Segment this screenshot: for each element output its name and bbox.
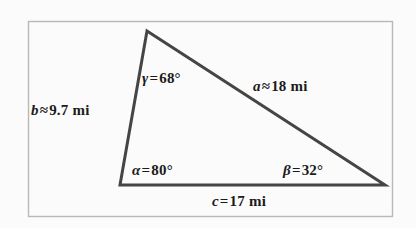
angle-gamma-value: 68° [159, 70, 181, 86]
angle-beta-relation: = [291, 162, 302, 178]
side-a-value: 18 mi [271, 78, 307, 94]
side-a-relation: ≈ [261, 78, 271, 94]
side-b-value: 9.7 mi [49, 102, 89, 118]
angle-label-beta: β=32° [283, 163, 323, 178]
side-a-variable: a [253, 78, 261, 94]
angle-label-alpha: α=80° [132, 163, 173, 178]
angle-alpha-value: 80° [151, 162, 173, 178]
figure-border [29, 22, 393, 217]
side-b-variable: b [31, 102, 39, 118]
side-c-relation: = [219, 193, 230, 209]
side-label-b: b≈9.7 mi [31, 103, 90, 118]
side-label-c: c=17 mi [212, 194, 266, 209]
side-label-a: a≈18 mi [253, 79, 308, 94]
angle-label-gamma: γ=68° [142, 71, 181, 86]
triangle-figure: b≈9.7 mi γ=68° a≈18 mi α=80° β=32° c=17 … [0, 0, 416, 228]
side-b-relation: ≈ [39, 102, 49, 118]
angle-gamma-relation: = [148, 70, 159, 86]
angle-alpha-relation: = [141, 162, 152, 178]
side-c-value: 17 mi [230, 193, 266, 209]
angle-beta-value: 32° [302, 162, 324, 178]
angle-alpha-variable: α [132, 162, 141, 178]
angle-beta-variable: β [283, 162, 291, 178]
side-c-variable: c [212, 193, 219, 209]
